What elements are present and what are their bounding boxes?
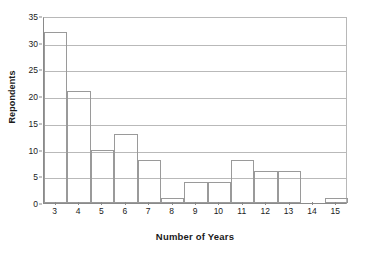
x-tick-label: 8: [169, 206, 174, 216]
x-tick-label: 5: [99, 206, 104, 216]
bar: [114, 134, 137, 203]
y-tick-label: 5: [18, 172, 38, 182]
y-tick-label: 15: [18, 119, 38, 129]
y-tick-mark: [39, 204, 42, 205]
y-tick-mark: [39, 123, 42, 124]
x-tick-label: 15: [331, 206, 340, 216]
bar: [325, 198, 348, 203]
x-tick-label: 14: [307, 206, 316, 216]
y-tick-label: 25: [18, 65, 38, 75]
bar: [278, 171, 301, 203]
y-tick-label: 20: [18, 92, 38, 102]
y-tick-label: 30: [18, 39, 38, 49]
x-tick-label: 12: [260, 206, 269, 216]
bar: [44, 32, 67, 203]
x-tick-label: 6: [122, 206, 127, 216]
x-tick-mark: [242, 202, 243, 205]
y-axis-tick-labels: 05101520253035: [18, 17, 38, 204]
bars-container: [44, 18, 346, 203]
histogram-chart: Repondents 05101520253035 34567891011121…: [0, 0, 366, 257]
bar: [208, 182, 231, 203]
x-tick-label: 4: [76, 206, 81, 216]
x-tick-label: 10: [214, 206, 223, 216]
x-tick-mark: [172, 202, 173, 205]
x-tick-mark: [55, 202, 56, 205]
bar: [254, 171, 277, 203]
x-tick-mark: [335, 202, 336, 205]
bar: [231, 160, 254, 203]
y-tick-label: 35: [18, 12, 38, 22]
bar: [161, 198, 184, 203]
y-tick-mark: [39, 43, 42, 44]
x-axis-title: Number of Years: [43, 231, 347, 242]
y-tick-mark: [39, 177, 42, 178]
x-tick-label: 9: [193, 206, 198, 216]
x-tick-mark: [218, 202, 219, 205]
x-tick-label: 11: [237, 206, 246, 216]
x-tick-mark: [101, 202, 102, 205]
plot-area: [43, 17, 347, 204]
bar: [67, 91, 90, 203]
x-tick-mark: [195, 202, 196, 205]
y-tick-mark: [39, 150, 42, 151]
x-tick-mark: [289, 202, 290, 205]
x-axis-tick-labels: 3456789101112131415: [43, 206, 347, 222]
x-tick-mark: [78, 202, 79, 205]
y-tick-mark: [39, 97, 42, 98]
x-tick-mark: [312, 202, 313, 205]
x-tick-label: 3: [52, 206, 57, 216]
bar: [184, 182, 207, 203]
y-tick-label: 10: [18, 146, 38, 156]
y-tick-label: 0: [18, 199, 38, 209]
y-tick-mark: [39, 70, 42, 71]
x-tick-mark: [125, 202, 126, 205]
x-tick-mark: [265, 202, 266, 205]
x-tick-mark: [148, 202, 149, 205]
bar: [138, 160, 161, 203]
x-tick-label: 7: [146, 206, 151, 216]
y-axis-title: Repondents: [7, 52, 17, 142]
bar: [91, 150, 114, 203]
x-tick-label: 13: [284, 206, 293, 216]
y-tick-mark: [39, 17, 42, 18]
